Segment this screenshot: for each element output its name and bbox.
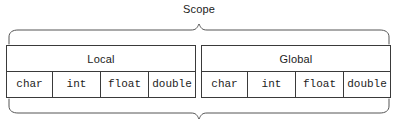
group-cell-local: Local (6, 45, 196, 71)
group-half-global: Global (201, 45, 391, 71)
type-cell-global-double: double (343, 71, 391, 98)
type-row: char int float double char int float dou… (6, 71, 391, 98)
group-header-row: Local Global (6, 45, 391, 71)
group-half-local: Local (6, 45, 196, 71)
type-cell-local-char: char (6, 71, 52, 98)
type-cell-global-float: float (295, 71, 343, 98)
scope-table: Local Global char int float double char … (6, 45, 391, 98)
scope-title: Scope (0, 2, 398, 16)
type-cell-local-int: int (52, 71, 100, 98)
type-half-local: char int float double (6, 71, 196, 98)
type-cell-global-char: char (201, 71, 247, 98)
type-cell-local-float: float (100, 71, 148, 98)
diagram-canvas: Scope Local Global char int float double (0, 0, 398, 132)
type-cell-local-double: double (148, 71, 196, 98)
group-cell-global: Global (201, 45, 391, 71)
type-cell-global-int: int (247, 71, 295, 98)
type-half-global: char int float double (201, 71, 391, 98)
